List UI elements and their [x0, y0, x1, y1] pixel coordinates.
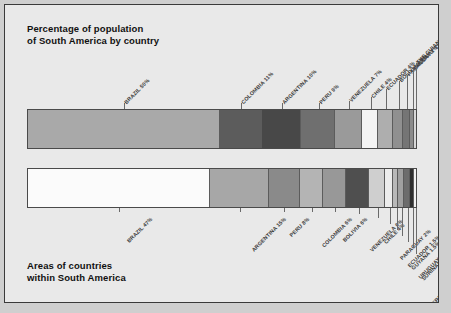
bar-segment — [346, 169, 369, 207]
bar-segment — [300, 169, 323, 207]
leader-line — [386, 89, 387, 109]
leader-line — [416, 208, 417, 254]
bar-segment — [385, 169, 393, 207]
leader-line — [399, 81, 400, 109]
leader-line — [282, 103, 283, 109]
leader-line — [312, 208, 313, 212]
area-chart-title: Areas of countries within South America — [27, 260, 126, 283]
leader-line — [407, 75, 408, 109]
area-stacked-bar — [27, 168, 417, 208]
leader-line — [413, 69, 414, 109]
leader-line — [378, 208, 379, 218]
bar-segment — [323, 169, 346, 207]
leader-line — [319, 103, 320, 109]
leader-line — [124, 103, 125, 109]
leader-line — [284, 208, 285, 212]
leader-line — [390, 208, 391, 224]
leader-line — [413, 208, 414, 248]
bar-segment — [210, 169, 268, 207]
bar-segment — [28, 169, 210, 207]
leader-line — [371, 97, 372, 109]
leader-line — [240, 208, 241, 212]
area-chart-panel: Areas of countries within South America — [5, 5, 438, 302]
leader-line — [416, 63, 417, 109]
bar-segment — [369, 169, 385, 207]
bar-segment — [414, 169, 416, 207]
leader-line — [397, 208, 398, 230]
leader-line — [402, 208, 403, 236]
figure-frame: Percentage of population of South Americ… — [4, 4, 439, 303]
leader-line — [408, 208, 409, 242]
leader-line — [119, 208, 120, 212]
bar-segment — [269, 169, 300, 207]
leader-line — [335, 208, 336, 212]
leader-line — [359, 208, 360, 214]
